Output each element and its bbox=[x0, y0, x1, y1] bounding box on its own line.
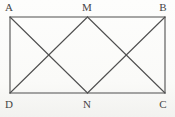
geometry-diagram: A M B D N C bbox=[0, 0, 175, 117]
vertex-label-m: M bbox=[82, 1, 92, 14]
vertex-label-c: C bbox=[159, 98, 167, 111]
vertex-label-b: B bbox=[159, 1, 167, 14]
vertex-label-a: A bbox=[5, 1, 13, 14]
vertex-label-d: D bbox=[5, 98, 13, 111]
vertex-label-n: N bbox=[83, 98, 91, 111]
